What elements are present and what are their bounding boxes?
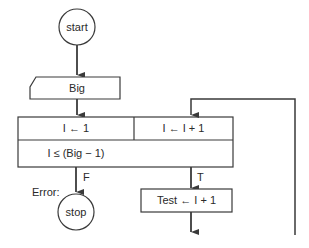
test-assign-label: Test ← I + 1: [141, 194, 232, 206]
error-label: Error:: [32, 186, 60, 198]
input-label: Big: [55, 82, 99, 94]
loop-init-label: I ← 1: [18, 122, 134, 134]
loop-condition-label: I ≤ (Big − 1): [20, 147, 132, 159]
loop-increment-label: I ← I + 1: [134, 122, 233, 134]
false-branch-label: F: [83, 171, 90, 183]
start-label: start: [59, 21, 95, 33]
true-branch-label: T: [197, 171, 204, 183]
stop-label: stop: [58, 206, 94, 218]
